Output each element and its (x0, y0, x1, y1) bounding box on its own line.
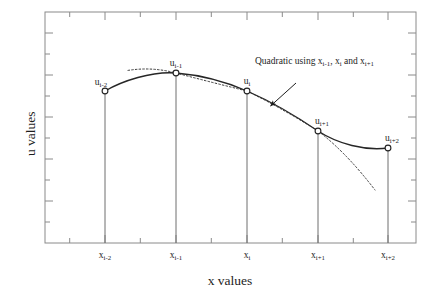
figure-container: Quadratic using xi-1, xi and xi+1 ui-2 u… (0, 0, 433, 298)
x-tick-label-i-minus-1: xi-1 (170, 251, 182, 262)
annotation-sub-3: i+1 (365, 60, 374, 67)
x-tick-label-i-plus-1: xi+1 (311, 251, 325, 262)
plot-frame (45, 12, 416, 243)
x-tick-label-i-plus-2: xi+2 (381, 251, 395, 262)
top-axis-ticks (70, 12, 388, 20)
x-axis-title: x values (208, 274, 253, 288)
quadratic-dotted-curve (128, 69, 375, 190)
annotation-tail: and x (342, 56, 365, 66)
point-label-i-plus-2: ui+2 (385, 134, 399, 145)
data-point-i-minus-1 (173, 70, 179, 76)
point-label-i-minus-2: ui-2 (95, 78, 107, 89)
plot-canvas (0, 0, 433, 298)
y-axis-ticks (45, 33, 53, 222)
point-label-i: ui (244, 77, 251, 88)
annotation-lead: Quadratic using x (255, 56, 323, 66)
annotation-mid: , x (330, 56, 340, 66)
y-axis-title: u values (24, 111, 38, 156)
quadratic-annotation-label: Quadratic using xi-1, xi and xi+1 (255, 57, 374, 68)
x-tick-label-i: xi (244, 251, 251, 262)
sample-stems (105, 73, 388, 243)
data-point-i-plus-2 (385, 145, 391, 151)
data-point-i (244, 88, 250, 94)
x-tick-label-i-minus-2: xi-2 (99, 251, 111, 262)
right-axis-ticks (408, 33, 416, 222)
data-point-i-plus-1 (315, 128, 321, 134)
annotation-sub-1: i-1 (323, 60, 331, 67)
annotation-arrow (271, 83, 297, 106)
x-axis-ticks (70, 235, 388, 243)
point-label-i-minus-1: ui-1 (170, 59, 182, 70)
data-point-i-minus-2 (102, 88, 108, 94)
point-label-i-plus-1: ui+1 (315, 117, 329, 128)
